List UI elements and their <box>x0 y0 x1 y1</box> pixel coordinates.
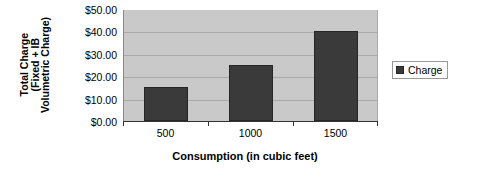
x-axis-tick-label: 500 <box>157 127 175 139</box>
bar <box>314 31 358 121</box>
plot-area <box>123 10 378 122</box>
bar <box>229 65 273 121</box>
y-axis-tick-label: $10.00 <box>85 94 117 106</box>
y-axis-tick-label: $0.00 <box>91 116 117 128</box>
x-axis-tick-labels: 50010001500 <box>123 127 378 143</box>
y-axis-tick-label: $30.00 <box>85 49 117 61</box>
chart-legend: Charge <box>392 61 448 79</box>
x-axis-tick-mark <box>208 122 209 126</box>
y-axis-title-line-3: Volumetric Charge) <box>40 17 51 113</box>
bar <box>144 87 188 121</box>
y-axis-tick-label: $40.00 <box>85 26 117 38</box>
y-axis-title: Total Charge (Fixed + IB Volumetric Char… <box>4 0 66 130</box>
y-axis-tick-label: $20.00 <box>85 71 117 83</box>
y-axis-tick-labels: $0.00$10.00$20.00$30.00$40.00$50.00 <box>62 10 120 122</box>
legend-label-charge: Charge <box>408 64 442 76</box>
x-axis-tick-mark <box>293 122 294 126</box>
x-axis-tick-mark <box>377 122 378 126</box>
bars-layer <box>123 10 378 122</box>
legend-swatch-square-icon <box>396 66 404 74</box>
y-axis-tick-label: $50.00 <box>85 4 117 16</box>
x-axis-tick-marks <box>123 122 378 126</box>
x-axis-tick-mark <box>123 122 124 126</box>
x-axis-tick-label: 1500 <box>324 127 347 139</box>
x-axis-tick-label: 1000 <box>239 127 262 139</box>
bar-chart: Total Charge (Fixed + IB Volumetric Char… <box>0 0 479 178</box>
x-axis-title: Consumption (in cubic feet) <box>100 150 390 162</box>
